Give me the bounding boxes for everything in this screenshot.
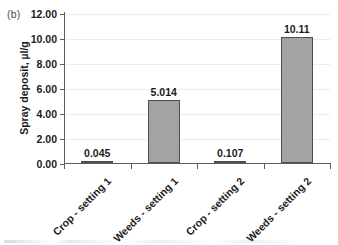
figure-panel-b: (b) Spray deposit, µl/g 0.002.004.006.00… (0, 0, 338, 245)
y-tick-label: 12.00 (31, 8, 57, 20)
y-tick-label: 6.00 (37, 83, 57, 95)
y-tick-label: 10.00 (31, 33, 57, 45)
y-tick-mark (60, 64, 64, 65)
x-tick-mark (197, 164, 198, 169)
y-tick-label: 4.00 (37, 108, 57, 120)
x-tick-mark (330, 164, 331, 169)
y-axis-line (64, 12, 65, 165)
x-tick-mark (131, 164, 132, 169)
y-tick-label: 8.00 (37, 58, 57, 70)
plot-area: 0.002.004.006.008.0010.0012.00 0.0455.01… (64, 14, 330, 164)
bar-value-label: 0.045 (84, 147, 110, 159)
gridline (64, 14, 330, 15)
y-tick-mark (60, 14, 64, 15)
bar-value-label: 0.107 (217, 147, 243, 159)
bar (281, 37, 313, 163)
bar-value-label: 10.11 (284, 23, 310, 35)
y-tick-mark (60, 39, 64, 40)
y-tick-mark (60, 114, 64, 115)
bar (214, 161, 246, 163)
bar (148, 100, 180, 163)
bar (81, 161, 113, 163)
y-tick-label: 0.00 (37, 158, 57, 170)
y-axis-title: Spray deposit, µl/g (18, 13, 30, 163)
bar-value-label: 5.014 (151, 86, 177, 98)
x-category-label: Crop - setting 1 (22, 175, 114, 245)
x-tick-mark (264, 164, 265, 169)
y-tick-mark (60, 139, 64, 140)
x-tick-mark (64, 164, 65, 169)
y-tick-mark (60, 89, 64, 90)
scan-artifact (4, 240, 304, 243)
y-tick-label: 2.00 (37, 133, 57, 145)
